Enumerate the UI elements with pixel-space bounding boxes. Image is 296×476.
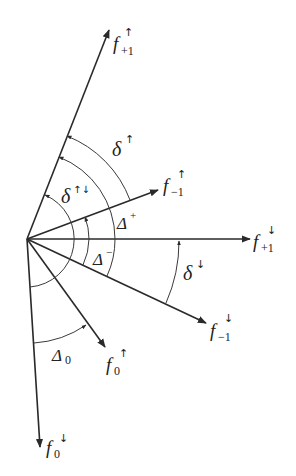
svg-text:f: f (106, 354, 114, 375)
svg-text:↑: ↑ (177, 168, 186, 181)
svg-text:0: 0 (114, 364, 120, 378)
vector-f-up-plus1 (27, 30, 109, 239)
label-f-down-minus1: f −1 ↓ (210, 312, 233, 344)
svg-text:f: f (113, 33, 121, 54)
svg-text:0: 0 (54, 447, 60, 461)
svg-text:+: + (130, 209, 136, 221)
label-f-up-plus1: f +1 ↑ (113, 26, 134, 58)
svg-text:↓: ↓ (267, 224, 276, 237)
svg-text:↑: ↑ (119, 347, 128, 360)
svg-text:Δ: Δ (92, 250, 103, 269)
label-Delta-plus: Δ + (116, 209, 136, 233)
svg-text:↑: ↑ (125, 133, 134, 146)
svg-text:↓: ↓ (224, 312, 233, 325)
label-Delta-0: Δ 0 (51, 346, 71, 367)
label-f-down-0: f 0 ↓ (46, 432, 68, 461)
svg-text:δ: δ (112, 138, 122, 160)
label-delta-updown: δ ↑↓ (61, 184, 90, 207)
arc-Delta-plus (85, 217, 89, 239)
vector-f-up-minus1 (27, 190, 158, 239)
spin-vector-diagram: f +1 ↑ f −1 ↑ f +1 ↓ f −1 ↓ f 0 ↑ f 0 ↓ … (0, 0, 296, 476)
svg-text:↑: ↑ (124, 26, 133, 39)
svg-text:δ: δ (183, 262, 193, 284)
svg-text:↓: ↓ (196, 258, 205, 271)
svg-text:−1: −1 (218, 330, 231, 344)
label-Delta-minus: Δ − (92, 246, 112, 269)
svg-text:0: 0 (65, 353, 71, 367)
svg-text:f: f (163, 175, 171, 196)
svg-text:−1: −1 (171, 185, 184, 199)
svg-text:↓: ↓ (59, 432, 68, 445)
svg-text:f: f (46, 437, 54, 458)
arc-delta-down (166, 241, 179, 303)
svg-text:+1: +1 (261, 241, 274, 255)
svg-text:−: − (106, 246, 112, 258)
label-delta-up: δ ↑ (112, 133, 134, 160)
label-f-down-plus1: f +1 ↓ (253, 224, 276, 255)
arc-Delta-0 (34, 325, 86, 343)
svg-text:Δ: Δ (51, 346, 62, 365)
svg-text:f: f (253, 231, 261, 252)
svg-text:+1: +1 (121, 44, 134, 58)
svg-text:f: f (210, 320, 218, 341)
arc-Delta-minus (83, 239, 89, 265)
label-delta-down: δ ↓ (183, 258, 205, 284)
label-f-up-minus1: f −1 ↑ (163, 168, 186, 199)
svg-text:↑↓: ↑↓ (73, 184, 90, 195)
svg-text:δ: δ (61, 185, 71, 207)
label-f-up-0: f 0 ↑ (106, 347, 128, 378)
svg-text:Δ: Δ (116, 214, 127, 233)
